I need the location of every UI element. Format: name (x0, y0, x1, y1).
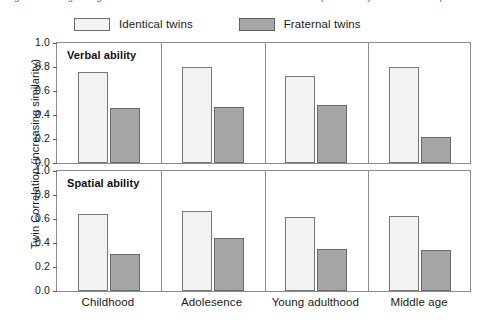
legend-label-fraternal: Fraternal twins (284, 18, 361, 30)
bar-fraternal-twins (421, 137, 451, 163)
bar-fraternal-twins (214, 238, 244, 291)
legend-swatch-fraternal-icon (239, 18, 275, 31)
x-axis-label: Middle age (367, 296, 471, 308)
bar-group (57, 171, 161, 291)
bar-identical-twins (78, 214, 108, 291)
legend-entry-fraternal: Fraternal twins (239, 18, 361, 31)
bar-identical-twins (182, 211, 212, 291)
y-axis-tick-label: 0.4 (35, 108, 50, 120)
y-axis-tick-label: 0.6 (35, 212, 50, 224)
y-axis-tick-label: 1.0 (35, 164, 50, 176)
legend-swatch-identical-icon (74, 18, 110, 31)
bar-fraternal-twins (317, 105, 347, 163)
x-axis-label: Young adulthood (264, 296, 368, 308)
y-axis-tick-label: 0.2 (35, 260, 50, 272)
y-axis-tick-label: 0.6 (35, 84, 50, 96)
y-axis-tick-label: 0.8 (35, 60, 50, 72)
twin-correlation-figure: Figure 1 Changes in genetic and environm… (0, 0, 491, 324)
bar-identical-twins (389, 216, 419, 291)
bar-fraternal-twins (421, 250, 451, 291)
panel-verbal-ability: Verbal ability 1.00.80.60.40.20.0 (56, 42, 471, 164)
bar-group (265, 171, 369, 291)
bar-group (57, 43, 161, 163)
y-axis-tick-label: 1.0 (35, 36, 50, 48)
bar-fraternal-twins (214, 107, 244, 163)
bar-identical-twins (285, 76, 315, 163)
x-axis-label: Childhood (56, 296, 160, 308)
bar-group (161, 43, 265, 163)
chart-legend: Identical twins Fraternal twins (74, 16, 361, 32)
y-axis-tick-label: 0.2 (35, 132, 50, 144)
figure-caption-sliver: Figure 1 Changes in genetic and environm… (6, 0, 486, 3)
bar-group (265, 43, 369, 163)
y-axis-tick-label: 0.4 (35, 236, 50, 248)
bar-fraternal-twins (110, 108, 140, 163)
panel-spatial-ability: Spatial ability 1.00.80.60.40.20.0 (56, 170, 471, 292)
bar-group (368, 171, 472, 291)
y-axis-tick-label: 0.8 (35, 188, 50, 200)
bar-group (368, 43, 472, 163)
y-axis-tick-label: 0.0 (35, 284, 50, 296)
bar-identical-twins (78, 72, 108, 163)
bar-fraternal-twins (110, 254, 140, 291)
bar-identical-twins (285, 217, 315, 291)
bar-identical-twins (389, 67, 419, 163)
legend-label-identical: Identical twins (119, 18, 193, 30)
legend-entry-identical: Identical twins (74, 18, 193, 31)
bar-fraternal-twins (317, 249, 347, 291)
bar-group (161, 171, 265, 291)
x-axis-label: Adolesence (160, 296, 264, 308)
bar-identical-twins (182, 67, 212, 163)
